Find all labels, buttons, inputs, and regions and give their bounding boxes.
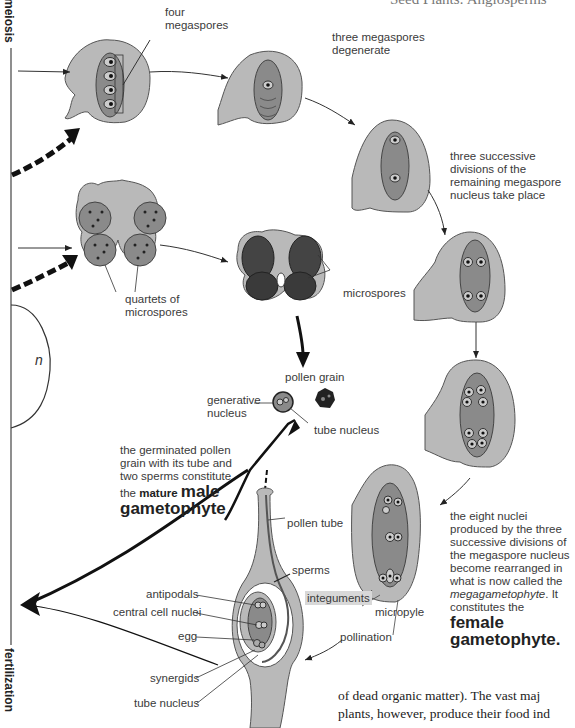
label-integuments: integuments [305,592,372,605]
label-pollen-tube: pollen tube [287,517,343,530]
pollen-grain-arrow-icon [296,316,310,368]
label-microspores: microspores [343,287,406,300]
dashed-arrow-lower-icon [12,255,78,290]
label-quartets-of-microspores: quartets of microspores [125,293,195,319]
anther-microspores-icon [237,230,330,300]
haploid-n-label: n [35,352,43,368]
male-gametophyte-caption: the germinated pollen grain with its tub… [120,444,250,517]
label-pollination: pollination [340,631,392,644]
ploidy-axis-line [11,48,50,645]
dashed-arrow-upper-icon [12,128,80,175]
label-tube-nucleus-pollen: tube nucleus [314,424,379,437]
female-caption-bold: female gametophyte. [450,613,561,649]
label-central-cell-nuclei: central cell nuclei [113,606,201,619]
label-three-megaspores-degenerate: three megaspores degenerate [332,31,442,57]
label-egg: egg [178,630,197,643]
ovule-one-megaspore-icon [352,120,430,212]
female-caption-italic: megagametophyte [450,588,545,600]
fertilization-axis-label: fertilization [2,648,16,712]
ovule-four-nuclei-icon [414,232,505,322]
angiosperm-life-cycle-diagram: Seed Plants: Angiosperms [0,0,575,728]
label-antipodals: antipodals [146,588,198,601]
label-synergids: synergids [150,672,199,685]
female-caption-text: the eight nuclei produced by the three s… [450,510,570,587]
body-text-excerpt: of dead organic matter). The vast maj pl… [338,687,575,723]
label-sperms: sperms [292,564,330,577]
ovule-eight-nuclei-icon [425,360,515,467]
meiosis-axis-label: meiosis [2,0,16,43]
label-four-megaspores: four megaspores [165,6,235,32]
label-generative-nucleus: generative nucleus [207,394,267,420]
anther-microspore-quartets-icon [76,180,166,292]
body-text-line-1: of dead organic matter). The vast maj [338,687,575,705]
ovule-four-megaspores-icon [65,40,150,123]
ovule-megaspores-degenerate-icon [218,51,302,125]
label-pollen-grain: pollen grain [285,371,344,384]
label-three-successive-divisions: three successive divisions of the remain… [450,150,565,202]
label-tube-nucleus-ovule: tube nucleus [134,697,199,710]
label-micropyle: micropyle [375,606,424,619]
female-gametophyte-caption: the eight nuclei produced by the three s… [450,510,575,648]
male-caption-mature: mature [139,487,177,499]
body-text-line-2: plants, however, produce their food ind [338,705,575,723]
